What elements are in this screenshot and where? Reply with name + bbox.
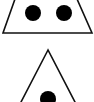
dot-icon bbox=[56, 5, 72, 21]
triangle-shape bbox=[3, 0, 92, 33]
dot-icon bbox=[25, 5, 41, 21]
diagram-canvas bbox=[0, 0, 94, 102]
top-triangle-figure bbox=[3, 0, 92, 33]
bottom-triangle-figure bbox=[20, 50, 76, 102]
